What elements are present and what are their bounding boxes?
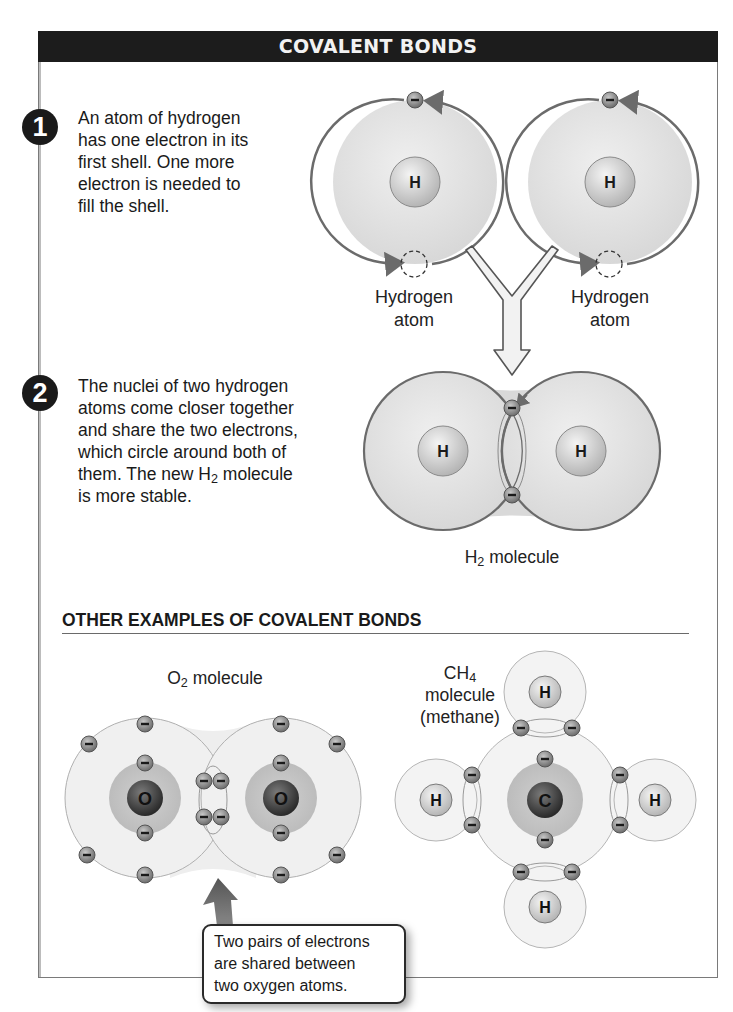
o2-molecule: O O [65, 716, 361, 883]
svg-text:H: H [430, 792, 442, 809]
ch4-molecule-label: CH4 molecule (methane) [405, 662, 515, 728]
divider [62, 633, 689, 634]
nucleus-label: H [437, 443, 449, 460]
step-1-text: An atom of hydrogen has one electron in … [78, 107, 248, 217]
step-2-text: The nuclei of two hydrogen atoms come cl… [78, 375, 298, 507]
merge-arrow-icon [466, 246, 558, 375]
nucleus-label: O [138, 789, 152, 809]
svg-text:H: H [539, 899, 551, 916]
electron-icon [504, 487, 520, 503]
step-number-2: 2 [22, 375, 58, 411]
callout-box: Two pairs of electrons are shared betwee… [202, 924, 406, 1004]
callout-arrow-icon [203, 878, 238, 926]
nucleus-label: H [409, 174, 421, 191]
section-heading: OTHER EXAMPLES OF COVALENT BONDS [62, 610, 421, 631]
h2-molecule-label: H2 molecule [432, 546, 592, 568]
o2-molecule-label: O2 molecule [140, 667, 290, 689]
atom-label: atom [394, 310, 434, 330]
atom-label: Hydrogen [571, 287, 649, 307]
step-number-1: 1 [22, 109, 58, 145]
hydrogen-atom-right: H [506, 92, 698, 277]
svg-text:H: H [649, 792, 661, 809]
atom-label: Hydrogen [375, 287, 453, 307]
atom-label: atom [590, 310, 630, 330]
nucleus-label: C [539, 791, 552, 811]
electron-icon [504, 400, 520, 416]
svg-text:H: H [539, 684, 551, 701]
electron-icon [407, 92, 423, 108]
h2-molecule: H H [364, 372, 660, 530]
nucleus-label: H [604, 174, 616, 191]
nucleus-label: O [274, 789, 288, 809]
electron-icon [602, 92, 618, 108]
nucleus-label: H [575, 443, 587, 460]
